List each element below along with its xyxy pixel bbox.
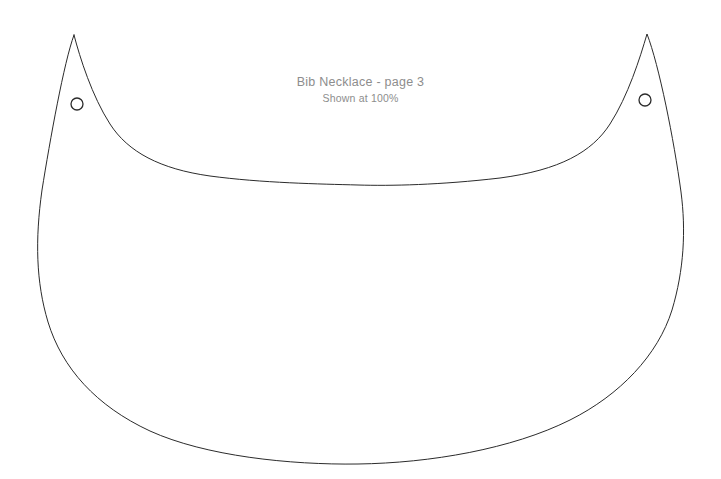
bib-outline-path (38, 34, 684, 464)
left-cord-hole-icon (71, 98, 83, 110)
right-cord-hole-icon (639, 94, 651, 106)
bib-necklace-pattern (0, 0, 721, 479)
page-canvas: Bib Necklace - page 3 Shown at 100% (0, 0, 721, 479)
